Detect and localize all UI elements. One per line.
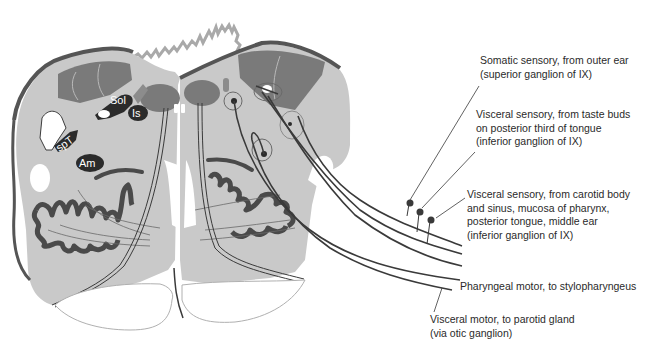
label-visceral-motor: Visceral motor, to parotid gland (via ot… — [430, 313, 575, 340]
label-sol: Sol — [110, 94, 126, 106]
inferior-ganglion-cell-taste — [417, 209, 424, 216]
medulla-diagram: Sol Is spT Am — [0, 0, 646, 348]
label-visceral-sensory-carotid: Visceral sensory, from carotid body and … — [467, 188, 630, 242]
label-line: Visceral sensory, from carotid body — [467, 188, 630, 202]
sol-white-core — [98, 110, 110, 118]
inferior-ganglion-cell-carotid — [428, 217, 435, 224]
midline-notch — [174, 104, 178, 113]
label-line: on posterior third of tongue — [476, 122, 630, 136]
label-somatic-sensory: Somatic sensory, from outer ear (superio… — [480, 54, 629, 81]
label-line: (inferior ganglion of IX) — [476, 135, 630, 149]
label-line: Visceral sensory, from taste buds — [476, 108, 630, 122]
label-line: posterior tongue, middle ear — [467, 215, 630, 229]
label-visceral-sensory-taste: Visceral sensory, from taste buds on pos… — [476, 108, 630, 149]
leader-visceral-motor — [434, 288, 442, 312]
pyramid-right — [182, 280, 305, 322]
label-line: Pharyngeal motor, to stylopharyngeus — [460, 280, 636, 294]
lateral-white-left — [30, 164, 50, 192]
label-line: (via otic ganglion) — [430, 327, 575, 341]
label-pharyngeal-motor: Pharyngeal motor, to stylopharyngeus — [460, 280, 636, 294]
superior-ganglion-cell — [407, 200, 414, 207]
label-line: and sinus, mucosa of pharynx, — [467, 202, 630, 216]
label-is: Is — [132, 107, 141, 119]
leader-visceral-carotid — [436, 198, 465, 218]
leader-somatic — [410, 86, 479, 200]
label-am: Am — [79, 157, 96, 169]
dmx-right — [223, 78, 229, 92]
label-line: Somatic sensory, from outer ear — [480, 54, 629, 68]
label-line: (inferior ganglion of IX) — [467, 229, 630, 243]
spt-dot-right — [288, 122, 292, 126]
label-line: Visceral motor, to parotid gland — [430, 313, 575, 327]
midline-notch — [181, 104, 185, 113]
hypoglossal-nucleus-right — [184, 80, 220, 106]
label-line: (superior ganglion of IX) — [480, 68, 629, 82]
